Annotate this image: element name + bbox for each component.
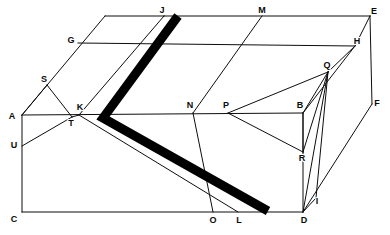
edge-S-A [22,85,47,115]
edge-P-Q [228,72,328,113]
vertex-label-t: T [68,118,74,128]
edge-N-O [193,113,213,212]
vertex-label-e: E [371,6,377,16]
vertex-label-f: F [374,98,380,108]
vertex-label-k: K [77,102,84,112]
vertex-label-p: P [223,100,229,110]
vertex-label-s: S [41,74,47,84]
edge-Q-H [328,46,355,72]
vertex-labels-layer: ABCDEFGHIJKLMNOPQRSTU [9,5,381,225]
vertex-label-j: J [159,5,164,15]
edge-S-T [47,85,72,117]
edge-E-F [370,16,372,104]
block-diagram-svg: ABCDEFGHIJKLMNOPQRSTU [0,0,390,235]
vertex-label-i: I [316,196,319,206]
vertex-label-q: Q [323,60,330,70]
vertex-label-h: H [354,36,361,46]
vertex-label-d: D [301,215,308,225]
vertex-label-r: R [299,153,306,163]
vertex-label-c: C [11,214,18,224]
edge-K-L [79,115,238,212]
vertex-label-l: L [236,215,242,225]
vertex-label-m: M [258,5,266,15]
edge-P-R [228,113,303,152]
edge-N-M [193,16,262,113]
vertex-label-n: N [187,100,194,110]
vertex-label-a: A [9,111,16,121]
vertex-label-g: G [67,35,74,45]
edge-A-B [22,113,303,115]
edge-G-H [78,43,355,46]
diagram-canvas: ABCDEFGHIJKLMNOPQRSTU [0,0,390,235]
edge-U-T [22,117,72,146]
edge-T-K [72,115,79,117]
vertex-label-u: U [11,140,18,150]
vertex-label-b: B [297,100,304,110]
vertex-label-o: O [209,215,216,225]
edges-layer [22,16,372,212]
